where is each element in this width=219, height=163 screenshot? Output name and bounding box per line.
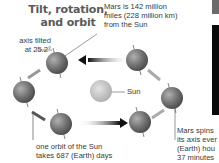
orbit-arrow-right-bottom <box>152 110 164 118</box>
axis-tilt-line-1: axis tilted <box>5 36 51 45</box>
orbit-arrow-left-bottom <box>32 112 45 120</box>
orbit-arrow-right-top <box>148 70 160 80</box>
mars-planet-icon <box>13 77 35 107</box>
distance-line-2: miles (228 million km) <box>104 11 177 20</box>
mars-planet-icon <box>50 109 72 139</box>
sun-icon <box>90 80 112 102</box>
gray-panel-edge <box>212 0 219 14</box>
arrowhead-bottom <box>120 118 128 128</box>
sun-label: Sun <box>127 87 141 96</box>
mars-planet-icon <box>161 83 183 113</box>
mars-planet-icon <box>129 107 151 137</box>
distance-line-3: from the Sun <box>104 20 177 29</box>
distance-label: Mars is 142 million miles (228 million k… <box>104 2 177 29</box>
orbit-period-label: one orbit of the Sun takes 687 (Earth) d… <box>36 142 112 160</box>
mars-planet-icon <box>126 45 148 75</box>
axis-tilt-label: axis tilted at 25.2° <box>5 36 51 54</box>
arrowhead-top <box>78 55 86 65</box>
spin-line-1: Mars spins <box>177 126 217 135</box>
spin-line-2: its axis ever <box>177 135 217 144</box>
orbit-line-1: one orbit of the Sun <box>36 142 112 151</box>
distance-leader <box>62 34 97 58</box>
spin-line-4: 37 minutes <box>177 153 217 162</box>
orbit-arrow-bottom <box>78 121 120 125</box>
orbit-line-2: takes 687 (Earth) days <box>36 151 112 160</box>
axis-tilt-line-2: at 25.2° <box>5 45 51 54</box>
spin-line-3: (Earth) hou <box>177 144 217 153</box>
orbit-arrow-top <box>88 58 130 62</box>
orbit-arrow-left-top <box>28 70 40 78</box>
black-panel-edge <box>212 25 219 115</box>
distance-line-1: Mars is 142 million <box>104 2 177 11</box>
spin-label: Mars spins its axis ever (Earth) hou 37 … <box>177 126 217 162</box>
